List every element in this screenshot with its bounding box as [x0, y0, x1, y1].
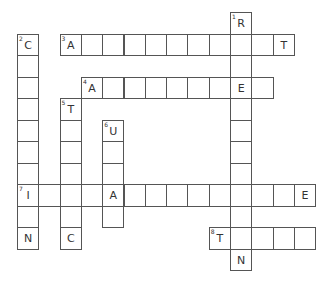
- crossword-cell[interactable]: 3A: [60, 34, 82, 57]
- cell-letter: N: [231, 254, 251, 267]
- cell-letter: N: [18, 232, 38, 245]
- crossword-cell[interactable]: [145, 77, 167, 100]
- crossword-cell[interactable]: 4A: [81, 77, 103, 100]
- crossword-cell[interactable]: [251, 77, 273, 100]
- crossword-cell[interactable]: T: [273, 34, 295, 57]
- crossword-cell[interactable]: [230, 34, 252, 57]
- crossword-cell[interactable]: [102, 34, 124, 57]
- crossword-cell[interactable]: [17, 120, 39, 143]
- crossword-cell[interactable]: 8T: [209, 227, 231, 250]
- crossword-cell[interactable]: [124, 77, 146, 100]
- crossword-cell[interactable]: [17, 98, 39, 121]
- crossword-cell[interactable]: 6U: [102, 120, 124, 143]
- crossword-cell[interactable]: [17, 55, 39, 78]
- crossword-cell[interactable]: [251, 184, 273, 207]
- cell-letter: E: [231, 82, 251, 95]
- cell-letter: C: [18, 39, 38, 52]
- crossword-cell[interactable]: N: [230, 249, 252, 272]
- crossword-cell[interactable]: [17, 77, 39, 100]
- crossword-cell[interactable]: [209, 34, 231, 57]
- crossword-cell[interactable]: [187, 77, 209, 100]
- crossword-cell[interactable]: [251, 34, 273, 57]
- crossword-cell[interactable]: [60, 141, 82, 164]
- crossword-cell[interactable]: [230, 206, 252, 229]
- crossword-cell[interactable]: N: [17, 227, 39, 250]
- crossword-cell[interactable]: [145, 184, 167, 207]
- crossword-cell[interactable]: [166, 34, 188, 57]
- crossword-grid: 1REN2C7IN3AT4A5TC6UAE8T: [0, 0, 330, 288]
- crossword-cell[interactable]: [273, 227, 295, 250]
- crossword-cell[interactable]: 2C: [17, 34, 39, 57]
- crossword-cell[interactable]: [251, 227, 273, 250]
- crossword-cell[interactable]: 7I: [17, 184, 39, 207]
- crossword-cell[interactable]: [209, 77, 231, 100]
- cell-letter: A: [103, 189, 123, 202]
- cell-letter: A: [61, 39, 81, 52]
- crossword-cell[interactable]: [102, 141, 124, 164]
- crossword-cell[interactable]: [60, 120, 82, 143]
- crossword-cell[interactable]: [273, 184, 295, 207]
- crossword-cell[interactable]: [230, 227, 252, 250]
- crossword-cell[interactable]: C: [60, 227, 82, 250]
- cell-letter: T: [61, 103, 81, 116]
- crossword-cell[interactable]: E: [294, 184, 316, 207]
- crossword-cell[interactable]: [60, 184, 82, 207]
- crossword-cell[interactable]: [230, 141, 252, 164]
- crossword-cell[interactable]: 1R: [230, 12, 252, 35]
- cell-letter: A: [82, 82, 102, 95]
- crossword-cell[interactable]: [294, 227, 316, 250]
- crossword-cell[interactable]: [17, 141, 39, 164]
- crossword-cell[interactable]: [102, 77, 124, 100]
- crossword-cell[interactable]: [166, 77, 188, 100]
- crossword-cell[interactable]: [102, 163, 124, 186]
- cell-letter: I: [18, 189, 38, 202]
- crossword-cell[interactable]: A: [102, 184, 124, 207]
- crossword-cell[interactable]: [81, 184, 103, 207]
- crossword-cell[interactable]: [166, 184, 188, 207]
- cell-letter: C: [61, 232, 81, 245]
- crossword-cell[interactable]: [187, 184, 209, 207]
- crossword-cell[interactable]: [81, 34, 103, 57]
- crossword-cell[interactable]: [102, 206, 124, 229]
- cell-letter: E: [295, 189, 315, 202]
- crossword-cell[interactable]: [17, 163, 39, 186]
- crossword-cell[interactable]: [230, 120, 252, 143]
- cell-letter: U: [103, 125, 123, 138]
- cell-letter: T: [210, 232, 230, 245]
- crossword-cell[interactable]: [230, 55, 252, 78]
- crossword-cell[interactable]: [60, 206, 82, 229]
- crossword-cell[interactable]: [17, 206, 39, 229]
- crossword-cell[interactable]: 5T: [60, 98, 82, 121]
- crossword-cell[interactable]: [230, 98, 252, 121]
- crossword-cell[interactable]: [209, 184, 231, 207]
- crossword-cell[interactable]: [124, 34, 146, 57]
- crossword-cell[interactable]: [38, 184, 60, 207]
- crossword-cell[interactable]: [230, 184, 252, 207]
- cell-letter: R: [231, 17, 251, 30]
- crossword-cell[interactable]: [230, 163, 252, 186]
- cell-letter: T: [274, 39, 294, 52]
- crossword-cell[interactable]: E: [230, 77, 252, 100]
- crossword-cell[interactable]: [145, 34, 167, 57]
- crossword-cell[interactable]: [124, 184, 146, 207]
- crossword-cell[interactable]: [60, 163, 82, 186]
- crossword-cell[interactable]: [187, 34, 209, 57]
